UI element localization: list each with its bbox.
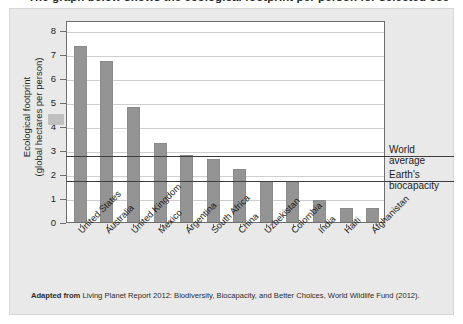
y-axis-tick <box>60 79 66 80</box>
reference-line-label-line2: biocapacity <box>389 180 459 192</box>
y-axis-tick <box>60 223 66 224</box>
x-axis-category-label: India <box>317 215 338 236</box>
x-axis-category-label: Afghanistan <box>370 194 411 235</box>
scan-artifact <box>48 114 64 125</box>
y-axis-tick <box>60 175 66 176</box>
y-axis-tick <box>60 31 66 32</box>
plot-overlay: United StatesAustraliaUnited KingdomMexi… <box>0 0 463 324</box>
y-axis-tick <box>60 151 66 152</box>
x-axis-category-label: Haiti <box>343 216 363 236</box>
y-axis-tick <box>60 127 66 128</box>
x-axis-category-label: Mexico <box>157 208 184 235</box>
reference-line-label: Worldaverage <box>389 144 459 167</box>
reference-line-label: Earth'sbiocapacity <box>389 169 459 192</box>
y-axis-tick <box>60 103 66 104</box>
reference-line-label-line1: Earth's <box>389 169 459 181</box>
x-axis-category-label: China <box>237 212 261 236</box>
ecological-footprint-figure: The graph below shows the ecological foo… <box>0 0 463 324</box>
reference-line-label-line2: average <box>389 155 459 167</box>
y-axis-tick <box>60 55 66 56</box>
source-caption: Adapted from Living Planet Report 2012: … <box>31 291 431 301</box>
source-text: Living Planet Report 2012: Biodiversity,… <box>82 291 419 300</box>
reference-line-label-line1: World <box>389 144 459 156</box>
source-prefix: Adapted from <box>31 291 80 300</box>
y-axis-tick <box>60 199 66 200</box>
